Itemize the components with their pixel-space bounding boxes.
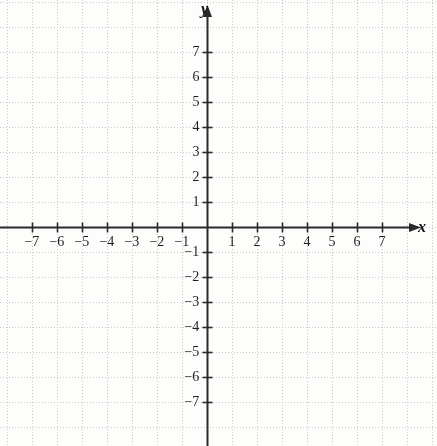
x-tick-label: 7: [379, 235, 386, 249]
x-tick-label: −2: [150, 235, 165, 249]
coordinate-plane: −7−6−5−4−3−2−11234567 7654321−1−2−3−4−5−…: [0, 0, 437, 446]
y-tick-label: −1: [185, 245, 200, 259]
y-tick-label: 1: [193, 195, 200, 209]
x-tick-label: 5: [329, 235, 336, 249]
y-tick-label: −5: [185, 345, 200, 359]
axes-lines: [0, 0, 437, 446]
y-tick-label: 7: [193, 45, 200, 59]
y-tick-label: 2: [193, 170, 200, 184]
x-axis-label: x: [418, 219, 426, 235]
y-axis-label: y: [201, 1, 208, 17]
x-tick-label: −6: [50, 235, 65, 249]
x-tick-label: −7: [25, 235, 40, 249]
y-tick-label: −4: [185, 320, 200, 334]
y-tick-label: −6: [185, 370, 200, 384]
x-tick-label: −4: [100, 235, 115, 249]
y-tick-label: −2: [185, 270, 200, 284]
x-tick-label: 4: [304, 235, 311, 249]
y-tick-label: 6: [193, 70, 200, 84]
x-tick-label: 3: [279, 235, 286, 249]
x-tick-label: −3: [125, 235, 140, 249]
y-tick-label: −3: [185, 295, 200, 309]
x-tick-label: 2: [254, 235, 261, 249]
y-tick-label: 4: [193, 120, 200, 134]
y-tick-label: −7: [185, 395, 200, 409]
y-tick-label: 3: [193, 145, 200, 159]
x-tick-label: −5: [75, 235, 90, 249]
x-tick-label: 6: [354, 235, 361, 249]
y-tick-label: 5: [193, 95, 200, 109]
x-tick-label: 1: [229, 235, 236, 249]
